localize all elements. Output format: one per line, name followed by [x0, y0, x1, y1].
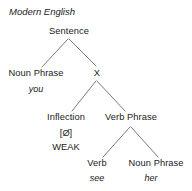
- feature-inflection-zero: [Ø]: [60, 128, 72, 139]
- node-x: X: [94, 68, 100, 79]
- node-inflection: Inflection: [47, 112, 85, 123]
- node-noun-phrase-object: Noun Phrase: [128, 158, 183, 169]
- syntax-tree-figure: Modern English Sentence Noun Phrase you …: [0, 0, 192, 191]
- node-noun-phrase-subject: Noun Phrase: [8, 68, 63, 79]
- branch-verb-phrase-to-verb: [103, 127, 130, 157]
- branch-sentence-to-x: [69, 39, 96, 66]
- gloss-subject: you: [29, 84, 44, 95]
- feature-inflection-strength: WEAK: [52, 142, 79, 153]
- node-sentence: Sentence: [49, 26, 89, 37]
- branch-verb-phrase-to-noun-phrase: [131, 127, 158, 157]
- gloss-verb: see: [90, 173, 105, 184]
- gloss-object: her: [144, 173, 157, 184]
- figure-caption: Modern English: [9, 6, 75, 17]
- node-verb: Verb: [87, 158, 106, 169]
- node-verb-phrase: Verb Phrase: [105, 112, 157, 123]
- branch-x-to-verb-phrase: [97, 81, 125, 111]
- branch-sentence-to-noun-phrase: [42, 39, 68, 67]
- branch-x-to-inflection: [72, 81, 96, 111]
